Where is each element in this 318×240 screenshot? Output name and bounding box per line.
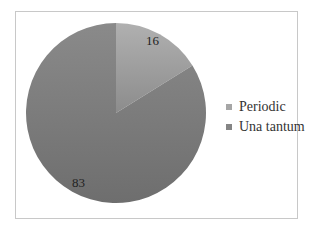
legend-label: Periodic — [239, 99, 286, 115]
legend-item-periodic: Periodic — [226, 97, 305, 117]
legend-item-una-tantum: Una tantum — [226, 117, 305, 137]
data-label-una-tantum: 83 — [72, 175, 85, 191]
legend: Periodic Una tantum — [226, 97, 305, 137]
legend-swatch-icon — [226, 124, 232, 130]
legend-label: Una tantum — [239, 119, 305, 135]
legend-swatch-icon — [226, 104, 232, 110]
data-label-periodic: 16 — [146, 33, 159, 49]
